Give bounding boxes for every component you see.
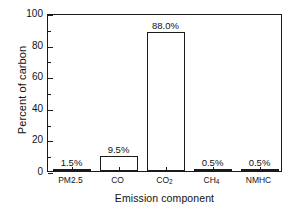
- y-tick-label: 100: [17, 9, 43, 19]
- bar-value-label: 9.5%: [91, 145, 147, 155]
- y-tick-mark-minor: [48, 94, 51, 95]
- x-tick-label: NMHC: [229, 176, 289, 185]
- x-tick-mark: [72, 167, 73, 171]
- y-tick-label: 80: [17, 41, 43, 51]
- y-tick-mark-major: [48, 173, 53, 174]
- x-tick-mark: [260, 167, 261, 171]
- y-tick-mark-minor: [48, 126, 51, 127]
- y-tick-label: 0: [17, 167, 43, 177]
- bar-value-label: 1.5%: [44, 158, 100, 168]
- y-tick-label: 60: [17, 72, 43, 82]
- bar-value-label: 88.0%: [138, 21, 194, 31]
- x-tick-mark: [213, 167, 214, 171]
- y-tick-mark-minor: [48, 62, 51, 63]
- y-tick-mark-minor: [48, 31, 51, 32]
- plot-area: 1.5%9.5%88.0%0.5%0.5%: [47, 14, 282, 172]
- y-tick-mark-major: [48, 110, 53, 111]
- y-tick-mark-major: [48, 141, 53, 142]
- x-tick-mark: [166, 167, 167, 171]
- x-tick-mark: [119, 167, 120, 171]
- y-axis-tick-labels: 020406080100: [15, 0, 43, 212]
- y-tick-mark-major: [48, 15, 53, 16]
- y-tick-mark-major: [48, 47, 53, 48]
- chart-figure: Percent of carbon 020406080100 1.5%9.5%8…: [0, 0, 294, 212]
- bar: [147, 32, 185, 171]
- y-tick-mark-major: [48, 78, 53, 79]
- x-axis-title: Emission component: [47, 192, 282, 204]
- y-tick-label: 20: [17, 135, 43, 145]
- y-tick-label: 40: [17, 104, 43, 114]
